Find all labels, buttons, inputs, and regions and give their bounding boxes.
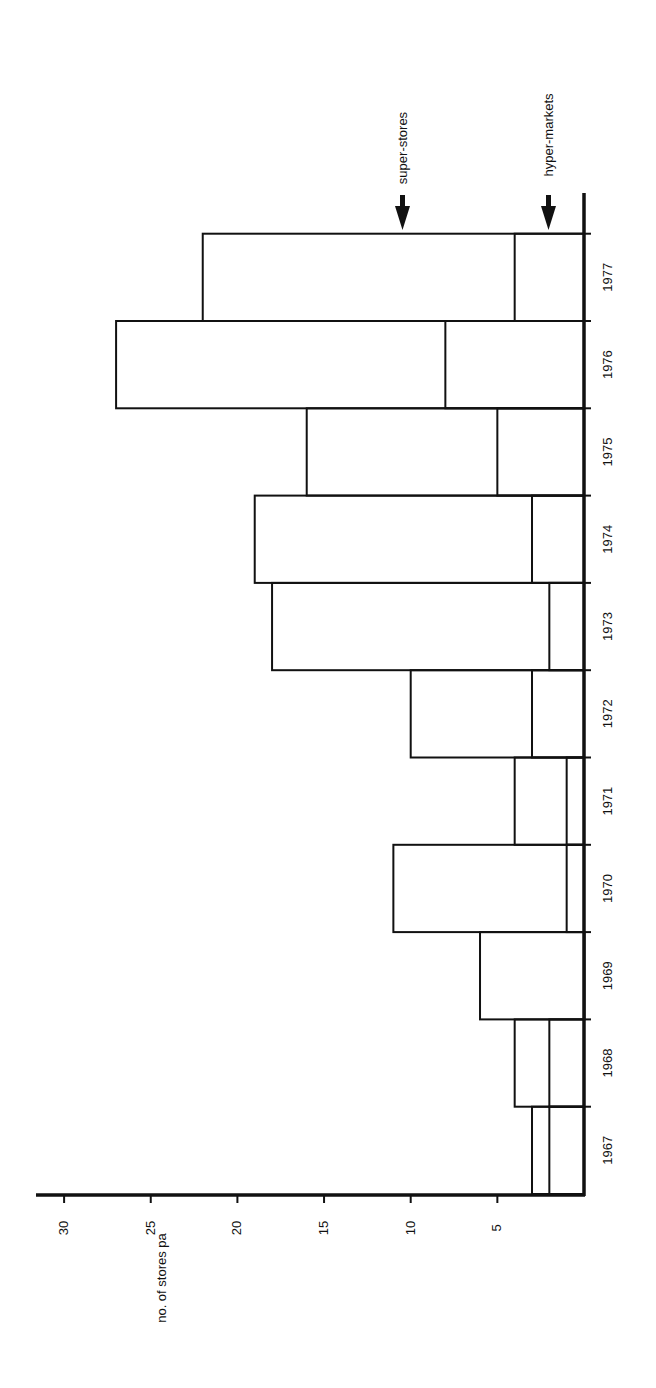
category-label-1972: 1972 xyxy=(600,699,615,728)
category-label-1971: 1971 xyxy=(600,787,615,816)
axes-group xyxy=(36,193,585,1196)
bar-super-stores-1977 xyxy=(203,234,584,321)
value-axis-label: no. of stores pa xyxy=(154,1232,169,1322)
bar-super-stores-1969 xyxy=(480,932,584,1019)
bar-hyper-markets-1975 xyxy=(497,408,584,495)
category-label-1977: 1977 xyxy=(600,263,615,292)
value-tick-label: 30 xyxy=(56,1221,71,1235)
bar-super-stores-1976 xyxy=(116,321,584,408)
category-label-1969: 1969 xyxy=(600,961,615,990)
arrow-down-icon xyxy=(395,195,410,230)
bars-group xyxy=(116,234,591,1194)
bar-hyper-markets-1977 xyxy=(515,234,584,321)
stores-per-year-chart: 51015202530 1967196819691970197119721973… xyxy=(0,0,656,1388)
bar-hyper-markets-1974 xyxy=(532,496,584,583)
category-label-1975: 1975 xyxy=(600,437,615,466)
bar-super-stores-1972 xyxy=(411,670,584,757)
bar-hyper-markets-1968 xyxy=(549,1019,584,1106)
value-tick-label: 10 xyxy=(403,1221,418,1235)
value-axis-ticks: 51015202530 xyxy=(56,1195,504,1235)
bar-super-stores-1967 xyxy=(532,1107,584,1194)
category-label-1973: 1973 xyxy=(600,612,615,641)
category-label-1970: 1970 xyxy=(600,874,615,903)
category-labels: 1967196819691970197119721973197419751976… xyxy=(600,263,615,1165)
series-annotations: super-storeshyper-markets xyxy=(395,93,556,230)
bar-hyper-markets-1973 xyxy=(549,583,584,670)
value-tick-label: 25 xyxy=(143,1221,158,1235)
bar-super-stores-1975 xyxy=(307,408,584,495)
bar-super-stores-1971 xyxy=(515,758,584,845)
bar-hyper-markets-1972 xyxy=(532,670,584,757)
value-tick-label: 15 xyxy=(316,1221,331,1235)
category-label-1976: 1976 xyxy=(600,350,615,379)
bar-super-stores-1974 xyxy=(255,496,584,583)
bar-hyper-markets-1971 xyxy=(567,758,584,845)
value-tick-label: 5 xyxy=(489,1224,504,1231)
category-label-1968: 1968 xyxy=(600,1049,615,1078)
bar-hyper-markets-1976 xyxy=(445,321,584,408)
category-label-1974: 1974 xyxy=(600,525,615,554)
bar-hyper-markets-1967 xyxy=(549,1107,584,1194)
annotation-super-stores: super-stores xyxy=(395,111,410,184)
bar-super-stores-1973 xyxy=(272,583,584,670)
bar-super-stores-1970 xyxy=(393,845,584,932)
value-tick-label: 20 xyxy=(229,1221,244,1235)
arrow-down-icon xyxy=(541,195,556,230)
bar-hyper-markets-1970 xyxy=(567,845,584,932)
category-label-1967: 1967 xyxy=(600,1136,615,1165)
annotation-hyper-markets: hyper-markets xyxy=(541,93,556,177)
